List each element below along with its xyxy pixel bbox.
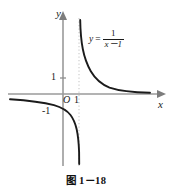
- function-graph: [0, 0, 172, 172]
- x-axis-arrow-icon: [157, 90, 166, 98]
- fraction-numerator: 1: [109, 29, 118, 38]
- x-tick-label-1: 1: [74, 95, 79, 105]
- y-tick-label-minus-1: -1: [42, 106, 50, 116]
- figure-container: y x O 1 1 -1 y = 1 x－1 图 1－18: [0, 0, 172, 192]
- equation-lhs: y: [89, 34, 93, 44]
- fraction-denominator: x－1: [103, 40, 125, 49]
- equation-fraction: 1 x－1: [103, 29, 125, 50]
- function-equation-label: y = 1 x－1: [89, 29, 124, 50]
- y-tick-label-1: 1: [51, 72, 56, 82]
- equation-equals-sign: =: [95, 34, 100, 44]
- x-axis-label: x: [158, 99, 163, 110]
- figure-caption: 图 1－18: [0, 172, 172, 187]
- origin-label: O: [63, 95, 70, 105]
- y-axis-label: y: [56, 8, 61, 19]
